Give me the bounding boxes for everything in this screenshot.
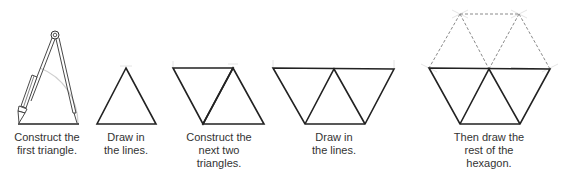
step-4-three-triangles-illustration bbox=[273, 60, 394, 124]
step-5-hexagon-illustration bbox=[421, 10, 558, 124]
caption-line: Construct the bbox=[14, 131, 79, 144]
pencil-icon bbox=[18, 75, 37, 123]
step-2-caption: Draw in the lines. bbox=[104, 131, 148, 157]
step-5-caption: Then draw the rest of the hexagon. bbox=[454, 131, 524, 170]
step-3-caption: Construct the next two triangles. bbox=[186, 131, 251, 170]
step-2-triangle-illustration bbox=[97, 66, 156, 124]
compass-pivot-icon bbox=[51, 31, 59, 39]
caption-line: first triangle. bbox=[14, 144, 79, 157]
step-3-two-triangles-illustration bbox=[173, 61, 264, 124]
caption-line: hexagon. bbox=[454, 157, 524, 170]
caption-line: next two bbox=[186, 144, 251, 157]
caption-line: rest of the bbox=[454, 144, 524, 157]
caption-line: Construct the bbox=[186, 131, 251, 144]
caption-line: triangles. bbox=[186, 157, 251, 170]
step-4-caption: Draw in the lines. bbox=[312, 131, 356, 157]
step-1-compass-illustration bbox=[18, 31, 79, 124]
caption-line: Draw in bbox=[312, 131, 356, 144]
step-1-caption: Construct the first triangle. bbox=[14, 131, 79, 157]
caption-line: the lines. bbox=[104, 144, 148, 157]
dashed-upper-half bbox=[429, 14, 550, 69]
caption-line: Draw in bbox=[104, 131, 148, 144]
caption-line: Then draw the bbox=[454, 131, 524, 144]
caption-line: the lines. bbox=[312, 144, 356, 157]
